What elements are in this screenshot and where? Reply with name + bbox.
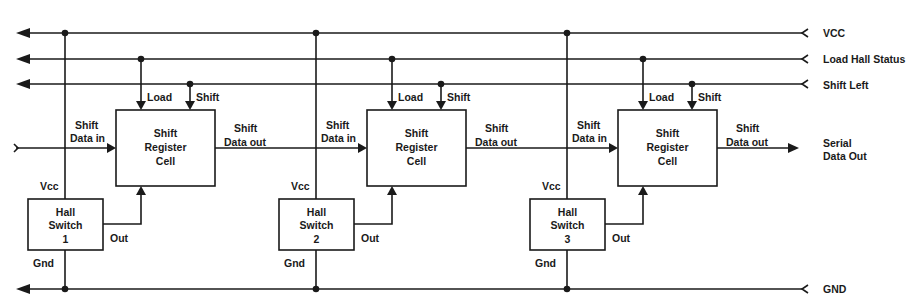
svg-text:Vcc: Vcc — [542, 180, 561, 192]
svg-text:Load: Load — [147, 91, 172, 103]
svg-text:3: 3 — [565, 233, 571, 245]
vcc-connector-icon — [802, 29, 808, 37]
vcc-label: VCC — [823, 27, 846, 39]
load-hall-status-label: Load Hall Status — [823, 53, 905, 65]
svg-text:Cell: Cell — [407, 155, 426, 167]
svg-text:Gnd: Gnd — [284, 257, 305, 269]
serial-out-arrow-icon — [788, 143, 799, 153]
svg-text:Data in: Data in — [321, 132, 356, 144]
svg-text:Shift: Shift — [656, 127, 680, 139]
svg-text:Load: Load — [649, 91, 674, 103]
svg-text:Shift: Shift — [75, 119, 99, 131]
shift-connector-icon — [802, 80, 808, 88]
svg-text:Data in: Data in — [572, 132, 607, 144]
svg-text:Data out: Data out — [224, 136, 267, 148]
svg-text:Shift: Shift — [698, 91, 722, 103]
stage-3: Shift Register Cell Hall Switch 3 Shift … — [530, 30, 799, 293]
svg-text:Switch: Switch — [300, 219, 334, 231]
svg-text:Out: Out — [361, 232, 380, 244]
hall-switch-shift-register-diagram: VCC Load Hall Status Shift Left GND Shif… — [0, 0, 924, 307]
svg-text:Switch: Switch — [551, 219, 585, 231]
vcc-arrow-icon — [16, 28, 30, 38]
gnd-arrow-icon — [16, 284, 30, 294]
svg-text:Shift: Shift — [447, 91, 471, 103]
serial-data-out-label-1: Serial — [823, 137, 852, 149]
svg-text:Shift: Shift — [326, 119, 350, 131]
gnd-connector-icon — [802, 285, 808, 293]
serial-data-out-label-2: Data Out — [823, 150, 867, 162]
svg-text:Hall: Hall — [307, 206, 326, 218]
shift-arrow-icon — [16, 79, 30, 89]
svg-text:Register: Register — [395, 141, 437, 153]
svg-text:Shift: Shift — [196, 91, 220, 103]
load-arrow-icon — [16, 54, 30, 64]
stage-2: Shift Register Cell Hall Switch 2 Shift … — [279, 30, 610, 293]
svg-text:Data out: Data out — [726, 136, 769, 148]
svg-text:Out: Out — [612, 232, 631, 244]
svg-text:Gnd: Gnd — [33, 257, 54, 269]
gnd-label: GND — [823, 283, 847, 295]
svg-text:Data in: Data in — [70, 132, 105, 144]
svg-text:Gnd: Gnd — [535, 257, 556, 269]
svg-text:1: 1 — [63, 233, 69, 245]
svg-text:Shift: Shift — [736, 122, 760, 134]
svg-text:Shift: Shift — [234, 122, 258, 134]
svg-text:Data out: Data out — [475, 136, 518, 148]
svg-text:Shift: Shift — [154, 127, 178, 139]
svg-text:Vcc: Vcc — [291, 180, 310, 192]
svg-text:Register: Register — [646, 141, 688, 153]
svg-text:Shift: Shift — [485, 122, 509, 134]
svg-text:Switch: Switch — [49, 219, 83, 231]
svg-text:2: 2 — [314, 233, 320, 245]
svg-text:Register: Register — [144, 141, 186, 153]
svg-text:Hall: Hall — [558, 206, 577, 218]
svg-text:Shift: Shift — [405, 127, 429, 139]
svg-text:Load: Load — [398, 91, 423, 103]
stage-1: Shift Register Cell Hall Switch 1 Shift … — [28, 30, 359, 293]
shift-left-label: Shift Left — [823, 79, 869, 91]
svg-text:Cell: Cell — [156, 155, 175, 167]
load-connector-icon — [802, 55, 808, 63]
svg-text:Shift: Shift — [577, 119, 601, 131]
svg-text:Hall: Hall — [56, 206, 75, 218]
svg-text:Cell: Cell — [658, 155, 677, 167]
svg-text:Out: Out — [110, 232, 129, 244]
svg-text:Vcc: Vcc — [40, 180, 59, 192]
